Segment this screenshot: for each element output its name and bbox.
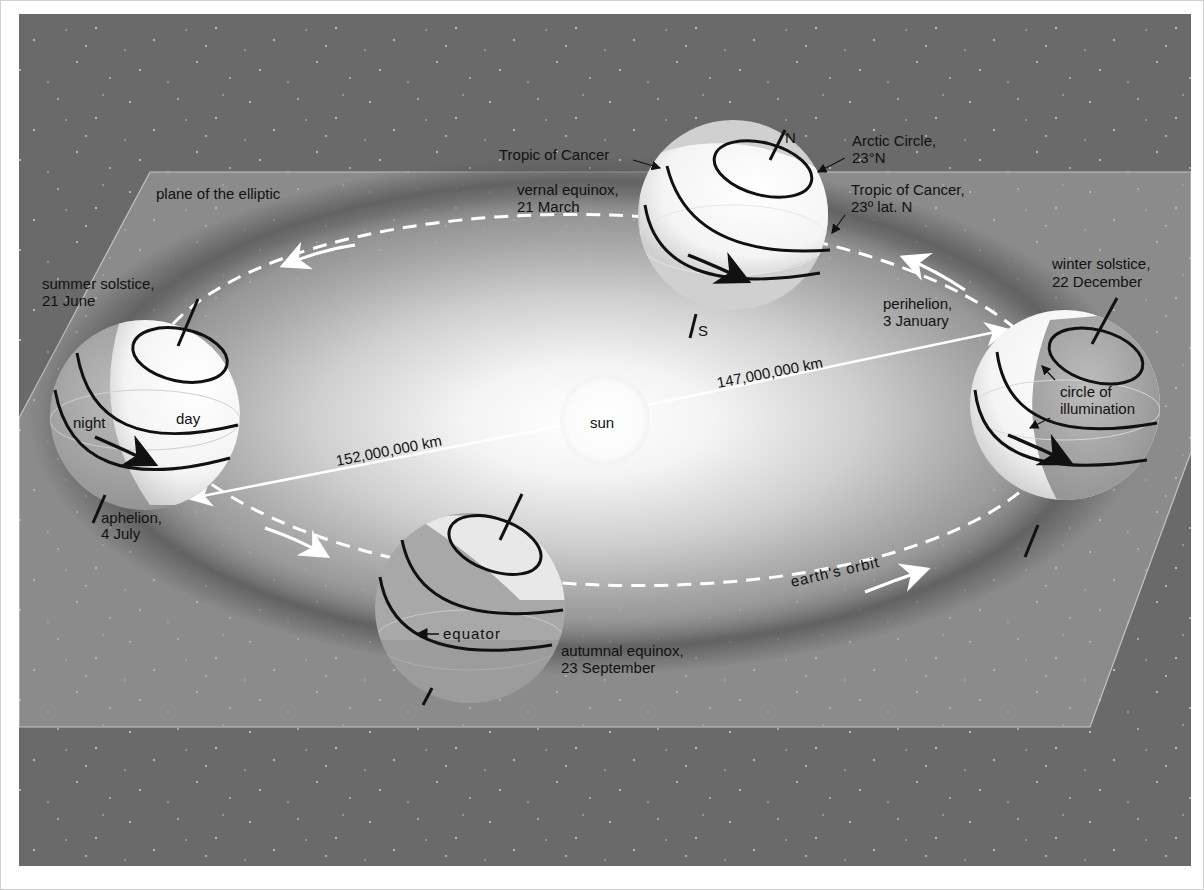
winter-label-line1: winter solstice, [1051, 255, 1150, 272]
vernal-tropic-left-label: Tropic of Cancer [499, 146, 609, 163]
perihelion-label-line1: perihelion, [883, 295, 952, 312]
perihelion-label-line2: 3 January [883, 312, 949, 329]
north-label: N [785, 129, 796, 146]
illumination-label-line1: circle of [1060, 383, 1113, 400]
vernal-label-line1: vernal equinox, [517, 181, 619, 198]
autumn-label-line1: autumnal equinox, [561, 642, 684, 659]
sun-label: sun [590, 414, 614, 431]
plane-label: plane of the elliptic [156, 185, 281, 202]
south-label: S [698, 322, 708, 339]
aphelion-label-line1: aphelion, [101, 509, 162, 526]
summer-label-line1: summer solstice, [42, 275, 155, 292]
earth-orbit-diagram: plane of the elliptic Tropic of Cancer v… [0, 0, 1204, 890]
vernal-label-line2: 21 March [517, 198, 580, 215]
tropic-right-label-line1: Tropic of Cancer, [851, 181, 965, 198]
aphelion-label-line2: 4 July [101, 525, 141, 542]
arctic-label-line1: Arctic Circle, [852, 132, 936, 149]
arctic-label-line2: 23°N [852, 149, 886, 166]
autumn-label-line2: 23 September [561, 659, 655, 676]
tropic-right-label-line2: 23º lat. N [851, 198, 912, 215]
illumination-label-line2: illumination [1060, 400, 1135, 417]
night-label: night [73, 414, 106, 431]
day-label: day [176, 410, 201, 427]
winter-label-line2: 22 December [1052, 273, 1142, 290]
equator-label: equator [443, 625, 501, 642]
summer-label-line2: 21 June [42, 292, 95, 309]
